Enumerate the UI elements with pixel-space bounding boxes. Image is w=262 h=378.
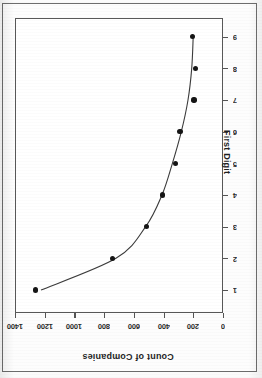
count-tick-label-600: 600 <box>123 322 145 331</box>
data-point-digit-5 <box>173 161 178 166</box>
count-tick-600 <box>134 313 135 318</box>
count-tick-1000 <box>74 313 75 318</box>
digit-tick-label-1: 1 <box>230 286 240 295</box>
digit-tick-9 <box>223 37 228 38</box>
data-point-digit-2 <box>110 256 115 261</box>
digit-tick-label-9: 9 <box>230 33 240 42</box>
digit-tick-3 <box>223 227 228 228</box>
digit-tick-7 <box>223 100 228 101</box>
digit-tick-label-7: 7 <box>230 96 240 105</box>
digit-tick-label-2: 2 <box>230 255 240 264</box>
digit-tick-label-3: 3 <box>230 223 240 232</box>
chart-figure: 1400 1200 1000 800 600 400 200 0 Count o… <box>0 0 262 378</box>
count-tick-label-400: 400 <box>153 322 175 331</box>
count-tick-200 <box>193 313 194 318</box>
count-tick-label-1200: 1200 <box>34 322 56 331</box>
count-tick-0 <box>223 313 224 318</box>
count-tick-label-200: 200 <box>182 322 204 331</box>
count-tick-label-1400: 1400 <box>4 322 26 331</box>
plot-area <box>15 18 223 313</box>
scanned-page: 1400 1200 1000 800 600 400 200 0 Count o… <box>0 0 262 378</box>
data-point-digit-7 <box>191 97 196 102</box>
digit-tick-8 <box>223 68 228 69</box>
count-tick-400 <box>164 313 165 318</box>
data-point-digit-6 <box>177 129 182 134</box>
count-tick-label-0: 0 <box>212 322 234 331</box>
digit-axis-title: First Digit <box>222 130 232 174</box>
digit-tick-2 <box>223 258 228 259</box>
digit-tick-4 <box>223 195 228 196</box>
count-tick-1200 <box>45 313 46 318</box>
count-tick-label-800: 800 <box>93 322 115 331</box>
count-axis-title: Count of Companies <box>63 352 193 362</box>
digit-tick-1 <box>223 290 228 291</box>
count-tick-label-1000: 1000 <box>63 322 85 331</box>
count-tick-1400 <box>15 313 16 318</box>
digit-tick-label-8: 8 <box>230 65 240 74</box>
count-tick-800 <box>104 313 105 318</box>
digit-tick-label-4: 4 <box>230 191 240 200</box>
